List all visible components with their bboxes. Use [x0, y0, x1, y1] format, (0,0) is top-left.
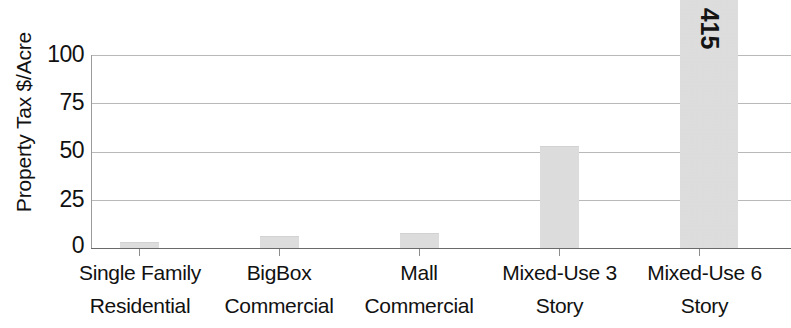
x-label-mixed-use-6-story: Mixed-Use 6 Story — [632, 256, 777, 322]
y-tick-label-50: 50 — [28, 139, 84, 162]
x-label-line2: Story — [632, 289, 777, 322]
y-axis-line — [91, 55, 92, 249]
x-label-line1: Mixed-Use 3 — [502, 261, 617, 284]
x-axis-line — [91, 248, 791, 249]
x-tickmark-0 — [139, 249, 140, 256]
bar-bigbox-commercial[interactable] — [260, 236, 299, 248]
x-tickmark-2 — [419, 249, 420, 256]
x-label-line2: Story — [487, 289, 632, 322]
plot-area: 415 — [91, 0, 791, 249]
x-label-bigbox-commercial: BigBox Commercial — [210, 256, 348, 322]
y-tick-label-25: 25 — [28, 188, 84, 211]
x-label-mall-commercial: Mall Commercial — [350, 256, 488, 322]
bar-value-label-mixed-use-6-story: 415 — [695, 8, 724, 50]
y-tick-label-0: 0 — [28, 234, 84, 257]
x-label-single-family-residential: Single Family Residential — [65, 256, 215, 322]
x-label-mixed-use-3-story: Mixed-Use 3 Story — [487, 256, 632, 322]
x-tickmark-3 — [559, 249, 560, 256]
x-axis-category-labels: Single Family Residential BigBox Commerc… — [91, 256, 791, 328]
y-tick-label-75: 75 — [28, 91, 84, 114]
x-label-line1: Mall — [400, 261, 437, 284]
bar-single-family-residential[interactable] — [120, 242, 159, 248]
property-tax-bar-chart: Property Tax $/Acre 100 75 50 25 0 415 S… — [0, 0, 791, 328]
x-label-line1: Mixed-Use 6 — [647, 261, 762, 284]
bar-mixed-use-3-story[interactable] — [540, 146, 579, 248]
y-tick-label-100: 100 — [28, 43, 84, 66]
bar-mixed-use-6-story[interactable]: 415 — [680, 0, 738, 248]
x-label-line1: BigBox — [247, 261, 312, 284]
x-label-line2: Commercial — [350, 289, 488, 322]
x-tickmark-1 — [279, 249, 280, 256]
x-label-line1: Single Family — [79, 261, 201, 284]
bar-mall-commercial[interactable] — [400, 233, 439, 248]
x-label-line2: Commercial — [210, 289, 348, 322]
x-label-line2: Residential — [65, 289, 215, 322]
x-tickmark-4 — [699, 249, 700, 256]
